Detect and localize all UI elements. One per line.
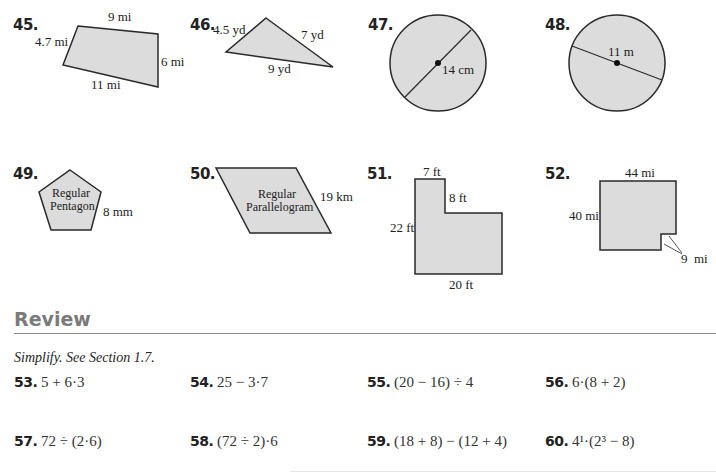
section-heading: Review [14, 308, 91, 330]
dimension-label: 11 mi [91, 77, 121, 93]
problem-number: 55. [367, 374, 390, 390]
figure-47-center-dot [435, 60, 441, 66]
figure-number: 51. [367, 165, 392, 183]
problem-number: 53. [14, 374, 37, 390]
section-divider [14, 333, 716, 334]
figure-number: 52. [545, 165, 570, 183]
figure-48-center-dot [614, 60, 620, 66]
instruction-text: Simplify. See Section 1.7. [14, 350, 155, 366]
dimension-label: 4.7 mi [35, 34, 68, 50]
figure-52-notched-square [600, 181, 676, 250]
dimension-label: 44 mi [625, 165, 655, 181]
figure-number: 48. [545, 16, 570, 34]
problem-item: 54. 25 − 3·7 [190, 374, 268, 391]
dimension-label: 20 ft [449, 277, 473, 293]
figure-number: 47. [368, 16, 393, 34]
figure-number: 45. [13, 16, 38, 34]
dimension-label: 8 ft [449, 190, 467, 206]
problem-item: 57. 72 ÷ (2·6) [14, 433, 102, 450]
dimension-label: 19 km [320, 189, 353, 205]
dimension-label: 14 cm [442, 62, 474, 78]
dimension-label: 6 mi [161, 54, 184, 70]
shape-label: Pentagon [50, 199, 95, 214]
problem-number: 60. [545, 433, 568, 449]
dimension-label: 9 mi [681, 251, 708, 267]
problem-item: 59. (18 + 8) − (12 + 4) [367, 433, 507, 450]
problem-expression: 25 − 3·7 [217, 374, 268, 390]
figure-number: 50. [190, 165, 215, 183]
problem-item: 58. (72 ÷ 2)·6 [190, 433, 278, 450]
shape-label: Parallelogram [246, 200, 313, 215]
problem-expression: (72 ÷ 2)·6 [217, 433, 278, 449]
problem-item: 56. 6·(8 + 2) [545, 374, 626, 391]
figure-number: 46. [190, 16, 215, 34]
problem-expression: 72 ÷ (2·6) [41, 433, 102, 449]
figure-number: 49. [13, 165, 38, 183]
dimension-label: 11 m [608, 44, 634, 60]
problem-expression: 4¹·(2³ − 8) [572, 433, 634, 449]
problem-item: 55. (20 − 16) ÷ 4 [367, 374, 473, 391]
page-bottom-divider [290, 471, 716, 472]
dimension-label: 7 yd [301, 27, 324, 43]
problem-number: 59. [367, 433, 390, 449]
dimension-label: 4.5 yd [213, 22, 246, 38]
dimension-label: 7 ft [423, 164, 441, 180]
problem-number: 57. [14, 433, 37, 449]
problem-expression: (20 − 16) ÷ 4 [394, 374, 473, 390]
dimension-label: 22 ft [390, 220, 414, 236]
dimension-label: 9 mi [108, 9, 131, 25]
dimension-label: 40 mi [569, 208, 599, 224]
problem-expression: (18 + 8) − (12 + 4) [394, 433, 507, 449]
problem-item: 60. 4¹·(2³ − 8) [545, 433, 635, 450]
dimension-label: 8 mm [103, 204, 133, 220]
problem-number: 54. [190, 374, 213, 390]
problem-number: 58. [190, 433, 213, 449]
problem-number: 56. [545, 374, 568, 390]
problem-item: 53. 5 + 6·3 [14, 374, 85, 391]
problem-expression: 5 + 6·3 [41, 374, 84, 390]
problem-expression: 6·(8 + 2) [572, 374, 625, 390]
dimension-label: 9 yd [268, 61, 291, 77]
